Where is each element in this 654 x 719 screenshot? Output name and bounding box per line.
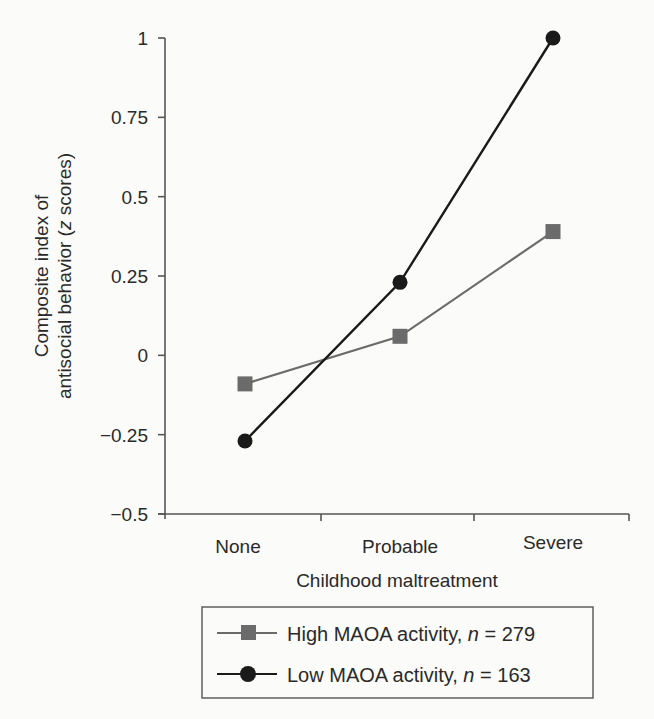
x-axis-title: Childhood maltreatment	[296, 570, 498, 591]
legend: High MAOA activity, n = 279 Low MAOA act…	[202, 607, 593, 698]
y-axis-title-line1: Composite index of	[31, 194, 52, 357]
circle-marker-icon	[240, 666, 256, 682]
y-tick-label: −0.5	[110, 504, 148, 525]
series-layer	[238, 31, 561, 449]
y-axis-title: Composite index of antisocial behavior (…	[31, 153, 75, 399]
series-high-maoa	[238, 224, 561, 391]
square-marker-icon	[241, 625, 256, 640]
x-tick-labels: NoneProbableSevere	[215, 532, 583, 557]
legend-label-high: High MAOA activity, n = 279	[287, 623, 535, 645]
square-marker-icon	[393, 329, 408, 344]
legend-label-low: Low MAOA activity, n = 163	[287, 664, 531, 686]
x-tick-label-none: None	[215, 536, 260, 557]
circle-marker-icon	[393, 275, 408, 290]
legend-item-high-maoa: High MAOA activity, n = 279	[217, 623, 535, 645]
y-tick-label: −0.25	[100, 425, 148, 446]
circle-marker-icon	[238, 434, 253, 449]
series-line	[245, 38, 553, 441]
line-chart: 10.750.50.250−0.25−0.5 NoneProbableSever…	[0, 0, 654, 719]
y-tick-label: 0	[137, 345, 148, 366]
y-axis-title-line2: antisocial behavior (z scores)	[54, 153, 75, 399]
square-marker-icon	[546, 224, 561, 239]
y-tick-label: 0.5	[122, 187, 148, 208]
square-marker-icon	[238, 376, 253, 391]
y-tick-label: 0.75	[111, 107, 148, 128]
series-low-maoa	[238, 31, 561, 449]
x-axis	[158, 514, 629, 521]
x-tick-label-severe: Severe	[523, 532, 583, 553]
circle-marker-icon	[546, 31, 561, 46]
y-ticks: 10.750.50.250−0.25−0.5	[100, 28, 165, 525]
y-tick-label: 1	[137, 28, 148, 49]
series-line	[245, 232, 553, 384]
legend-item-low-maoa: Low MAOA activity, n = 163	[217, 664, 531, 686]
y-tick-label: 0.25	[111, 266, 148, 287]
x-tick-label-probable: Probable	[362, 536, 438, 557]
